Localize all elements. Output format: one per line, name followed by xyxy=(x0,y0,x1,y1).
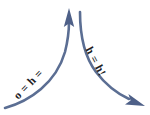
ascending-arrow xyxy=(5,8,74,108)
descending-arrow xyxy=(80,12,145,106)
arrow-pair-graphic xyxy=(0,0,150,115)
descending-arrow-curve xyxy=(80,12,129,99)
ascending-arrow-curve xyxy=(5,22,69,108)
diagram-canvas: o = h = h = h! xyxy=(0,0,150,115)
